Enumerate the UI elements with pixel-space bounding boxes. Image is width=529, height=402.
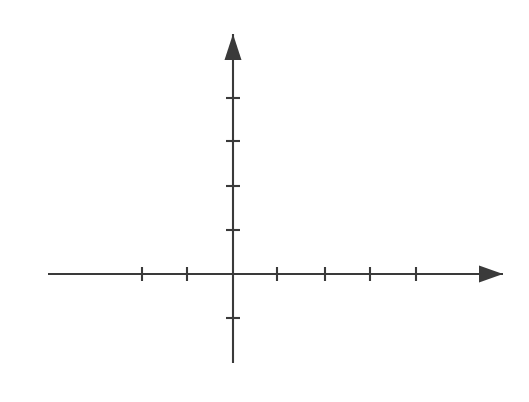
figure-background <box>0 0 529 402</box>
coordinate-axes-figure <box>0 0 529 402</box>
axes-diagram-canvas <box>0 0 529 402</box>
